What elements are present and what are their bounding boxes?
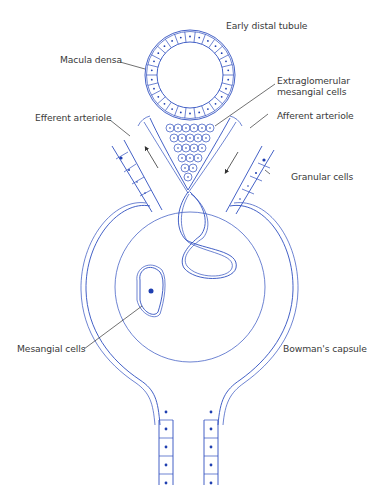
label-mesangial-cells: Mesangial cells (17, 343, 85, 354)
proximal-tubule (159, 411, 218, 485)
distal-tubule (145, 30, 235, 120)
bowmans-capsule (81, 203, 298, 425)
extraglomerular-mesangium (138, 116, 242, 193)
label-bowmans-capsule: Bowman's capsule (283, 343, 367, 354)
efferent-flow-arrow (146, 148, 158, 168)
label-early-distal-tubule: Early distal tubule (226, 20, 307, 31)
label-granular-cells: Granular cells (291, 171, 353, 182)
label-extraglomerular-line1: Extraglomerular (277, 75, 350, 86)
juxtaglomerular-diagram: Early distal tubule Macula densa Extragl… (0, 0, 375, 503)
label-macula-densa: Macula densa (60, 54, 122, 65)
glomerular-capillary-loop (178, 192, 236, 279)
label-extraglomerular-line2: mesangial cells (277, 86, 346, 97)
efferent-arteriole-wall (112, 140, 162, 212)
afferent-flow-arrow (226, 152, 238, 172)
label-afferent-arteriole: Afferent arteriole (277, 110, 354, 121)
leader-lines (84, 62, 275, 349)
label-efferent-arteriole: Efferent arteriole (35, 112, 112, 123)
mesangial-cell (137, 265, 165, 317)
